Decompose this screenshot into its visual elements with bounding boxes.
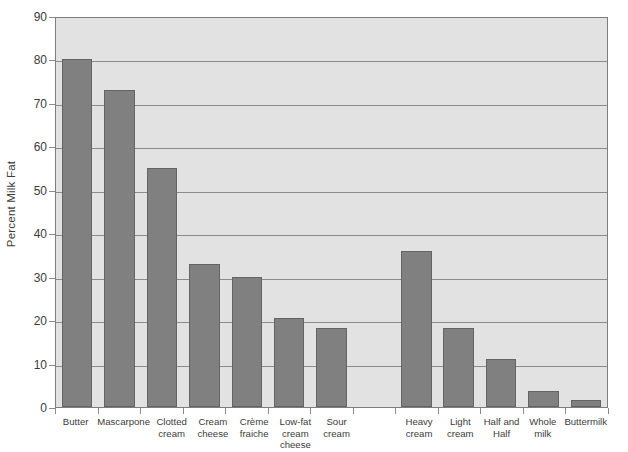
x-axis-label: Sourcream xyxy=(316,416,357,452)
x-axis-tick-mark xyxy=(395,408,396,414)
bar[interactable] xyxy=(528,391,559,407)
bar[interactable] xyxy=(486,359,517,407)
x-axis-tick-mark xyxy=(98,408,99,414)
bar[interactable] xyxy=(232,277,263,407)
y-axis-title-label: Percent Milk Fat xyxy=(5,161,17,247)
x-axis-label: Half andHalf xyxy=(481,416,522,452)
bar[interactable] xyxy=(104,90,135,407)
y-axis-tick-label: 10 xyxy=(34,357,47,373)
y-axis: 9080706050403020100 xyxy=(22,17,55,408)
bar-slot[interactable] xyxy=(141,18,183,407)
x-axis-tick-mark xyxy=(140,408,141,414)
x-axis-tick-mark xyxy=(480,408,481,414)
x-axis-tick-mark xyxy=(608,408,609,414)
x-axis-label xyxy=(357,416,398,452)
bar-slot[interactable] xyxy=(353,18,395,407)
bar[interactable] xyxy=(62,59,93,407)
bar-slot[interactable] xyxy=(438,18,480,407)
bar-chart: Percent Milk Fat 9080706050403020100 But… xyxy=(0,0,628,452)
plot-area xyxy=(55,17,608,408)
bars-layer xyxy=(56,18,607,407)
x-axis-label: Crèmefraiche xyxy=(234,416,275,452)
bar-slot[interactable] xyxy=(226,18,268,407)
y-axis-title: Percent Milk Fat xyxy=(0,0,22,408)
bar-slot[interactable] xyxy=(310,18,352,407)
x-axis-tick-mark xyxy=(353,408,354,414)
y-axis-tick-label: 30 xyxy=(34,270,47,286)
y-axis-tick-label: 70 xyxy=(34,96,47,112)
y-axis-tick-label: 0 xyxy=(40,400,47,416)
x-axis-labels: ButterMascarponeClottedcreamCreamcheeseC… xyxy=(55,416,608,452)
x-axis-tick-mark xyxy=(268,408,269,414)
x-axis-tick-mark xyxy=(438,408,439,414)
x-axis-label: Lightcream xyxy=(440,416,481,452)
x-axis-tick-mark xyxy=(55,408,56,414)
x-axis-label: Low-fatcreamcheese xyxy=(275,416,316,452)
x-axis-tick-mark xyxy=(310,408,311,414)
y-axis-tick-label: 50 xyxy=(34,183,47,199)
x-axis-tick-mark xyxy=(523,408,524,414)
bar-slot[interactable] xyxy=(395,18,437,407)
bar[interactable] xyxy=(274,318,305,407)
x-axis-tick-mark xyxy=(565,408,566,414)
y-axis-tick-label: 40 xyxy=(34,226,47,242)
y-axis-tick-label: 90 xyxy=(34,9,47,25)
bar-slot[interactable] xyxy=(480,18,522,407)
bar-slot[interactable] xyxy=(565,18,607,407)
y-axis-tick-label: 80 xyxy=(34,52,47,68)
bar[interactable] xyxy=(401,251,432,407)
bar-slot[interactable] xyxy=(56,18,98,407)
x-axis-label: Heavycream xyxy=(398,416,439,452)
y-axis-tick-label: 20 xyxy=(34,313,47,329)
x-axis-tick-mark xyxy=(225,408,226,414)
bar-slot[interactable] xyxy=(98,18,140,407)
bar[interactable] xyxy=(189,264,220,407)
bar[interactable] xyxy=(316,328,347,407)
x-axis-ticks xyxy=(55,408,608,415)
x-axis-label: Wholemilk xyxy=(522,416,563,452)
x-axis-label: Buttermilk xyxy=(563,416,608,452)
x-axis-label: Creamcheese xyxy=(192,416,233,452)
bar[interactable] xyxy=(147,168,178,407)
bar[interactable] xyxy=(443,328,474,408)
y-axis-tick-label: 60 xyxy=(34,139,47,155)
bar-slot[interactable] xyxy=(183,18,225,407)
x-axis-label: Butter xyxy=(55,416,96,452)
x-axis-label: Mascarpone xyxy=(96,416,151,452)
x-axis-label: Clottedcream xyxy=(151,416,192,452)
x-axis-tick-mark xyxy=(183,408,184,414)
bar-slot[interactable] xyxy=(522,18,564,407)
bar-slot[interactable] xyxy=(268,18,310,407)
bar[interactable] xyxy=(571,400,602,407)
